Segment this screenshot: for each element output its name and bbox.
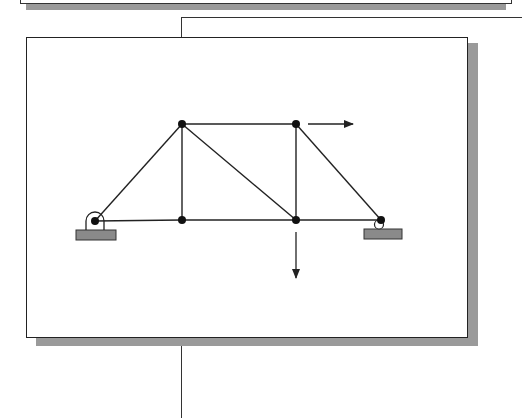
pin-support-base-icon bbox=[76, 230, 116, 240]
member-DF bbox=[296, 124, 381, 220]
joint-B bbox=[178, 120, 186, 128]
joint-A bbox=[91, 217, 99, 225]
applied-loads bbox=[296, 124, 353, 278]
joint-F bbox=[377, 216, 385, 224]
member-AC bbox=[95, 220, 182, 221]
truss-joints bbox=[91, 120, 385, 225]
member-BE bbox=[182, 124, 296, 220]
joint-E bbox=[292, 216, 300, 224]
joint-D bbox=[292, 120, 300, 128]
supports bbox=[76, 212, 402, 240]
member-AB bbox=[95, 124, 182, 221]
truss-members bbox=[95, 124, 381, 221]
joint-C bbox=[178, 216, 186, 224]
roller-support-base-icon bbox=[364, 229, 402, 239]
